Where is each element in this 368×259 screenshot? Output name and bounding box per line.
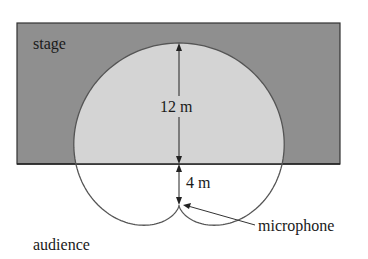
- cardioid-diagram: 12 m 4 m stage microphone audience: [0, 0, 368, 259]
- label-audience: audience: [33, 236, 90, 253]
- arrowhead-down-icon: [176, 197, 182, 205]
- label-stage: stage: [33, 35, 66, 53]
- label-4m: 4 m: [186, 174, 211, 191]
- dimension-4m: 4 m: [176, 164, 211, 205]
- label-12m: 12 m: [160, 98, 193, 115]
- arrowhead-icon: [183, 203, 191, 209]
- arrowhead-up-icon: [176, 164, 182, 172]
- label-microphone: microphone: [258, 217, 334, 235]
- microphone-pointer: [183, 203, 255, 225]
